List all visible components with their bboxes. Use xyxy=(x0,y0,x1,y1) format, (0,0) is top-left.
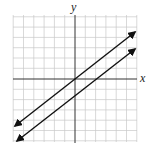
x-axis-label: x xyxy=(140,71,145,86)
line-shifted-down xyxy=(17,49,135,141)
y-axis-label: y xyxy=(71,0,76,15)
coordinate-plane xyxy=(0,0,152,154)
